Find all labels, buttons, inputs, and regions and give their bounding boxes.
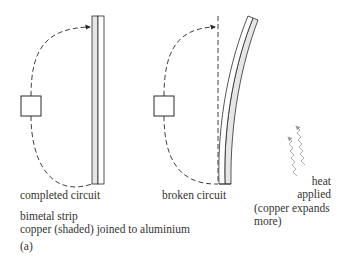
heat-label-line4: more) — [254, 215, 281, 228]
broken-circuit-panel — [154, 16, 258, 184]
device-box-icon — [21, 96, 41, 116]
circuit-wire-bottom — [164, 116, 218, 184]
description-line1: bimetal strip — [20, 210, 78, 223]
heat-label-line2: applied — [256, 188, 331, 201]
heat-arrows-icon — [288, 126, 305, 176]
caption-broken-circuit: broken circuit — [162, 189, 226, 202]
device-box-icon — [154, 96, 174, 116]
circuit-wire-top — [164, 27, 215, 96]
heat-label-line3: (copper expands — [254, 202, 330, 215]
copper-layer — [92, 16, 98, 184]
circuit-wire-bottom — [31, 116, 92, 187]
caption-completed-circuit: completed circuit — [20, 189, 100, 202]
description-line2: copper (shaded) joined to aluminium — [20, 223, 190, 236]
circuit-wire-top — [31, 27, 90, 96]
heat-label-line1: heat — [256, 175, 331, 188]
aluminium-layer — [98, 16, 104, 184]
completed-circuit-panel — [21, 16, 104, 187]
figure-label: (a) — [20, 240, 33, 253]
